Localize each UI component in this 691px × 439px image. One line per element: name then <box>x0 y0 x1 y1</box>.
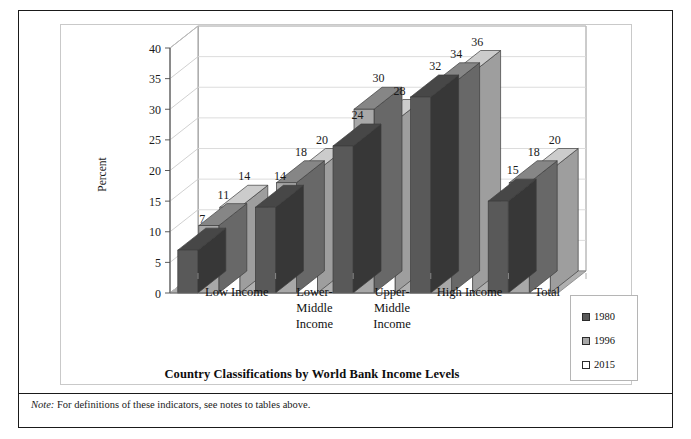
bar-chart-3d: 0510152025303540Percent14117201814283024… <box>60 24 632 385</box>
bar-1980-Lower-Middle Income <box>255 185 303 293</box>
bar-value-label: 20 <box>316 133 328 147</box>
bar-1980-Total <box>488 179 536 293</box>
x-category-label: Middle <box>374 301 411 315</box>
y-tick-label: 30 <box>149 103 161 117</box>
bar-1980-High Income <box>411 75 459 293</box>
legend-item-1996[interactable]: 1996 <box>582 329 637 353</box>
figure-note: Note: For definitions of these indicator… <box>31 399 310 410</box>
x-category-label: Middle <box>296 301 333 315</box>
bar-front-face <box>488 201 508 293</box>
chart-legend: 1980 1996 2015 <box>570 295 638 381</box>
bar-value-label: 15 <box>507 163 519 177</box>
y-axis-title: Percent <box>96 156 108 191</box>
y-tick-label: 35 <box>149 72 161 86</box>
bar-value-label: 28 <box>394 84 406 98</box>
y-tick-label: 10 <box>149 225 161 239</box>
x-category-label: Income <box>373 317 411 331</box>
x-category-label: Lower- <box>296 285 333 299</box>
x-category-label: High Income <box>437 285 503 299</box>
bar-value-label: 34 <box>450 47 462 61</box>
bar-value-label: 36 <box>471 35 483 49</box>
legend-item-1980[interactable]: 1980 <box>582 305 637 329</box>
bar-value-label: 24 <box>352 108 364 122</box>
bar-front-face <box>178 250 198 293</box>
legend-label-1996: 1996 <box>594 336 615 347</box>
bar-value-label: 18 <box>528 145 540 159</box>
legend-label-2015: 2015 <box>594 360 615 371</box>
bar-value-label: 18 <box>295 145 307 159</box>
legend-swatch-1996 <box>582 337 590 345</box>
bar-side-face <box>353 124 381 293</box>
legend-swatch-1980 <box>582 313 590 321</box>
legend-item-2015[interactable]: 2015 <box>582 353 637 377</box>
bar-value-label: 32 <box>429 59 441 73</box>
bar-value-label: 14 <box>238 169 250 183</box>
y-tick-label: 15 <box>149 195 161 209</box>
y-tick-label: 40 <box>149 42 161 56</box>
bar-front-face <box>333 146 353 293</box>
chart-title: Country Classifications by World Bank In… <box>62 367 562 382</box>
x-category-label: Total <box>534 285 560 299</box>
bar-value-label: 14 <box>274 169 286 183</box>
y-tick-label: 25 <box>149 133 161 147</box>
x-category-label: Upper- <box>374 285 409 299</box>
note-divider <box>19 393 672 394</box>
bar-side-face <box>431 75 459 293</box>
y-tick-label: 20 <box>149 164 161 178</box>
note-body: For definitions of these indicators, see… <box>54 399 310 410</box>
bar-value-label: 7 <box>199 212 205 226</box>
bar-front-face <box>255 207 275 293</box>
bar-value-label: 11 <box>218 188 230 202</box>
y-tick-label: 5 <box>155 256 161 270</box>
bar-value-label: 30 <box>373 71 385 85</box>
legend-label-1980: 1980 <box>594 312 615 323</box>
bar-front-face <box>411 97 431 293</box>
legend-swatch-2015 <box>582 361 590 369</box>
bar-1980-Upper-Middle Income <box>333 124 381 293</box>
y-tick-label: 0 <box>155 287 161 301</box>
figure-page: 0510152025303540Percent14117201814283024… <box>0 0 691 439</box>
x-category-label: Low Income <box>205 285 269 299</box>
note-label: Note: <box>31 399 54 410</box>
x-category-label: Income <box>296 317 334 331</box>
bar-value-label: 20 <box>549 133 561 147</box>
